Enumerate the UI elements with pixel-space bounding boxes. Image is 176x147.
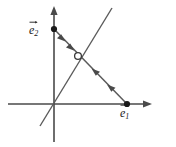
x-axis-arrowhead [143, 100, 152, 107]
e1-subscript: 1 [125, 112, 129, 121]
connector-arrowheads-upper [57, 34, 75, 51]
arrowhead-upper-2 [66, 44, 75, 51]
axis-label-e1: e1 [120, 107, 129, 121]
intersection-open-circle [75, 53, 82, 60]
vector-diagram-canvas [0, 0, 176, 147]
vector-arrow-accent-icon [120, 102, 128, 107]
diagonal-line [40, 8, 112, 126]
connector-segment [54, 29, 127, 104]
figure-root: e2 e1 [0, 0, 176, 147]
e2-subscript: 2 [34, 29, 38, 38]
x-axis [8, 100, 152, 107]
vector-arrow-accent-icon [29, 19, 37, 24]
y-axis-arrowhead [50, 6, 57, 15]
e2-label-stack: e2 [29, 24, 38, 38]
arrowhead-upper-1 [57, 34, 66, 41]
e1-label-stack: e1 [120, 107, 129, 121]
point-marker-e2 [51, 26, 57, 32]
axis-label-e2: e2 [29, 24, 38, 38]
